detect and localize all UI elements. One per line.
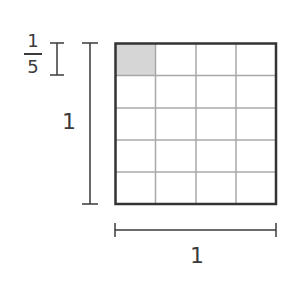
- fraction-label-one-fifth: 1 5: [22, 32, 44, 76]
- height-label: 1: [58, 110, 80, 134]
- width-label: 1: [186, 244, 208, 268]
- width-bracket: [115, 223, 276, 237]
- fraction-numerator: 1: [22, 32, 44, 50]
- fifth-height-bracket: [50, 43, 64, 75]
- fraction-bar: [24, 53, 42, 55]
- fraction-denominator: 5: [22, 58, 44, 76]
- unit-square-diagram: [0, 0, 295, 281]
- height-bracket: [82, 43, 98, 204]
- shaded-cell: [116, 44, 156, 75]
